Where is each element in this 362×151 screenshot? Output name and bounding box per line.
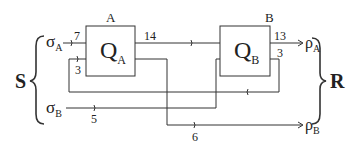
group-label-s: S [15, 71, 26, 91]
rho-a-subscript: A [313, 43, 320, 54]
sigma-b-symbol: σ [46, 98, 55, 117]
edge-label-14: 14 [144, 30, 156, 42]
rho-b-subscript: B [313, 125, 320, 136]
left-brace [30, 36, 44, 124]
box-a-title: A [106, 11, 115, 24]
node-a-symbol: Q [100, 37, 117, 63]
rho-a-symbol: ρ [305, 34, 313, 51]
output-rho-b: ρB [305, 117, 320, 136]
node-a-label: QA [100, 38, 126, 66]
node-b-label: QB [234, 38, 259, 66]
output-rho-a: ρA [305, 35, 320, 54]
edge-label-5: 5 [91, 113, 97, 125]
sigma-a-symbol: σ [46, 32, 55, 51]
node-a-subscript: A [117, 53, 126, 67]
node-b-symbol: Q [234, 37, 251, 63]
node-b-subscript: B [251, 53, 259, 67]
sigma-a-subscript: A [55, 42, 62, 53]
rho-b-symbol: ρ [305, 116, 313, 133]
edge-sigmaB-to-B [66, 59, 220, 108]
input-sigma-a: σA [46, 33, 62, 53]
sigma-b-subscript: B [55, 108, 62, 119]
edge-label-7: 7 [74, 30, 80, 42]
edge-label-6: 6 [192, 131, 198, 143]
group-label-r: R [330, 71, 344, 91]
edge-label-13: 13 [274, 30, 286, 42]
input-sigma-b: σB [46, 99, 62, 119]
box-b-title: B [265, 11, 274, 24]
edge-label-3-a: 3 [75, 64, 81, 76]
edge-label-3-b: 3 [277, 47, 283, 59]
